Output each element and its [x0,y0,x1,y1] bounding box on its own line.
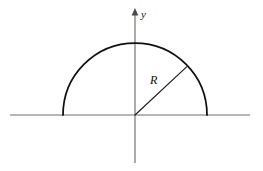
y-axis-label: y [140,8,146,20]
radius-label: R [149,73,158,87]
radius-segment [135,67,187,115]
semicircle-figure: y R [0,0,263,171]
figure-svg: y R [0,0,263,171]
y-axis-arrowhead-icon [132,8,139,16]
